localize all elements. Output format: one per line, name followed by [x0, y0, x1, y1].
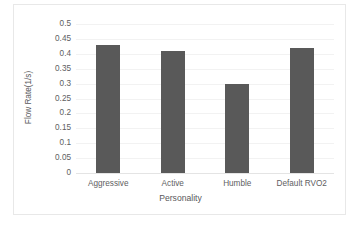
x-axis-tick-label: Humble [223, 179, 251, 188]
gridline [76, 173, 334, 174]
y-axis-tick-label: 0.35 [55, 65, 71, 73]
y-axis-tick-label: 0.25 [55, 94, 71, 102]
bars-layer: AggressiveActiveHumbleDefault RVO2 [76, 24, 334, 173]
y-axis-title: Flow Rate(1/s) [24, 53, 33, 143]
bar[interactable] [96, 45, 120, 173]
y-axis-tick-label: 0.15 [55, 124, 71, 132]
y-axis-tick-label: 0.5 [60, 20, 71, 28]
bar[interactable] [225, 84, 249, 173]
bar-group: Active [141, 24, 206, 173]
y-axis-tick-label: 0.3 [60, 79, 71, 87]
bar[interactable] [161, 51, 185, 173]
chart-container: Flow Rate(1/s) 00.050.10.150.20.250.30.3… [13, 4, 346, 215]
bar[interactable] [290, 48, 314, 173]
y-axis-tick-label: 0.05 [55, 154, 71, 162]
y-axis-tick-label: 0.4 [60, 50, 71, 58]
bar-group: Default RVO2 [270, 24, 335, 173]
y-axis-tick-label: 0.2 [60, 109, 71, 117]
bar-group: Aggressive [76, 24, 141, 173]
y-axis-tick-label: 0.45 [55, 35, 71, 43]
y-axis-tick-label: 0 [66, 169, 71, 177]
x-axis-tick-label: Default RVO2 [277, 179, 327, 188]
y-axis-tick-label: 0.1 [60, 139, 71, 147]
bar-group: Humble [205, 24, 270, 173]
plot-area: 00.050.10.150.20.250.30.350.40.450.5 Agg… [76, 24, 334, 173]
x-axis-title: Personality [14, 193, 347, 203]
x-axis-tick-label: Active [162, 179, 184, 188]
x-axis-tick-label: Aggressive [88, 179, 129, 188]
